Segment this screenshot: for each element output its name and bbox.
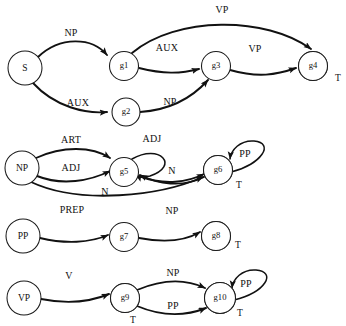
node-label: g4 bbox=[309, 60, 318, 70]
node-label: g10 bbox=[214, 292, 227, 302]
edge-label-g7-g8-np: NP bbox=[165, 205, 178, 216]
node-NP[interactable]: NP bbox=[5, 151, 39, 185]
node-PP[interactable]: PP bbox=[6, 219, 40, 253]
node-g7[interactable]: g7 bbox=[110, 223, 139, 252]
node-label: S bbox=[22, 63, 27, 73]
node-g10[interactable]: g10 T bbox=[205, 283, 244, 319]
edge-label-g2-g3: NP bbox=[163, 96, 176, 107]
network-canvas: S g1 g2 g3 g4 T NP AUX A bbox=[0, 0, 346, 326]
edge-g7-g8-np bbox=[139, 232, 200, 241]
edge-g9-g10-np bbox=[137, 281, 205, 290]
np-network: NP g5 g6 T ART ADJ N ADJ N PP bbox=[5, 133, 264, 197]
vp-network: VP g9 T g10 T V NP PP PP bbox=[7, 267, 267, 325]
node-VP[interactable]: VP bbox=[7, 281, 41, 315]
terminal-marker-label: T bbox=[236, 180, 242, 190]
edge-label-NP-g5-art: ART bbox=[61, 134, 81, 145]
edge-label-VP-g9-v: V bbox=[65, 270, 73, 281]
node-label: g1 bbox=[120, 60, 129, 70]
edge-label-g10-g10-pp: PP bbox=[240, 278, 252, 289]
node-label: g8 bbox=[212, 230, 221, 240]
edge-label-g6-g6-pp: PP bbox=[239, 148, 251, 159]
transition-network-diagram: S g1 g2 g3 g4 T NP AUX A bbox=[0, 0, 346, 326]
edge-label-PP-g7-prep: PREP bbox=[60, 204, 85, 215]
s-network: S g1 g2 g3 g4 T NP AUX A bbox=[8, 4, 341, 126]
edge-NP-g5-art bbox=[36, 149, 110, 158]
node-label: g9 bbox=[121, 292, 130, 302]
node-g6[interactable]: g6 T bbox=[204, 156, 243, 191]
pp-network: PP g7 g8 T PREP NP bbox=[6, 204, 241, 253]
node-label: g2 bbox=[122, 106, 131, 116]
edge-label-g3-g4: VP bbox=[248, 43, 261, 54]
node-g8[interactable]: g8 T bbox=[202, 222, 242, 251]
node-label: g5 bbox=[120, 166, 129, 176]
terminal-marker-label: T bbox=[335, 73, 341, 83]
node-label: g6 bbox=[214, 164, 223, 174]
edge-S-g1 bbox=[38, 41, 107, 57]
node-S[interactable]: S bbox=[8, 51, 42, 85]
node-label: g3 bbox=[212, 60, 221, 70]
edge-label-g1-g3: AUX bbox=[156, 42, 179, 53]
node-label: NP bbox=[16, 163, 28, 173]
edge-label-NP-g6-n: N bbox=[101, 186, 108, 197]
node-g2[interactable]: g2 bbox=[112, 98, 140, 126]
edge-g3-g4 bbox=[230, 68, 296, 75]
edge-label-S-g1: NP bbox=[64, 27, 77, 38]
terminal-marker-label: T bbox=[235, 240, 241, 250]
edge-label-S-g2: AUX bbox=[67, 97, 90, 108]
edge-label-g9-g10-np: NP bbox=[166, 267, 179, 278]
node-label: g7 bbox=[120, 231, 129, 241]
node-g1[interactable]: g1 bbox=[110, 52, 139, 81]
edge-label-NP-g5-adj: ADJ bbox=[62, 162, 81, 173]
node-g3[interactable]: g3 bbox=[202, 52, 231, 81]
node-label: VP bbox=[18, 293, 30, 303]
node-g9[interactable]: g9 T bbox=[111, 284, 140, 326]
node-g5[interactable]: g5 bbox=[110, 158, 139, 187]
edge-label-g9-g10-pp: PP bbox=[167, 300, 179, 311]
node-g4[interactable]: g4 T bbox=[299, 52, 342, 84]
node-label: PP bbox=[18, 231, 29, 241]
terminal-marker-label: T bbox=[237, 308, 243, 318]
edge-label-g1-g4: VP bbox=[215, 4, 228, 15]
terminal-marker-label: T bbox=[130, 315, 136, 325]
edge-label-g5-g6-n: N bbox=[168, 165, 175, 176]
edge-PP-g7-prep bbox=[40, 235, 108, 242]
edge-g1-g3 bbox=[139, 68, 199, 73]
edge-VP-g9-v bbox=[41, 294, 109, 302]
edge-label-g5-g5-adj: ADJ bbox=[143, 133, 162, 144]
